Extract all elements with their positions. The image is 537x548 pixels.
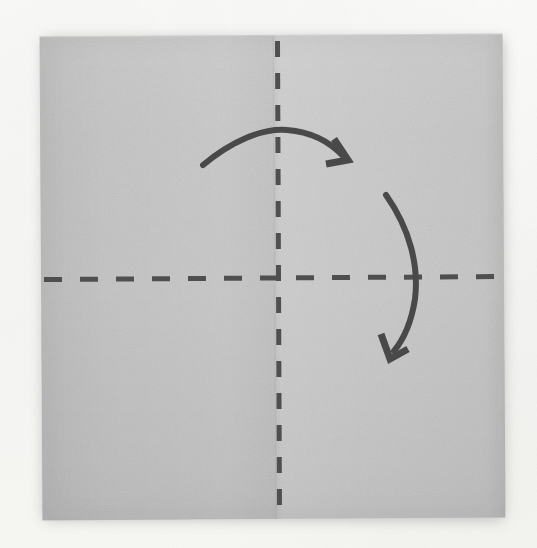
origami-instruction-image [0,0,537,548]
paper-sheet [40,34,506,521]
vertical-crease-shading [273,35,279,519]
paper-sheet-wrapper [41,35,504,519]
paper-grain-texture [40,34,506,521]
